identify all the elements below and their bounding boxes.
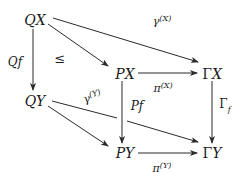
label-qf: Qf <box>8 57 22 68</box>
arrow-gamma-x <box>53 18 198 62</box>
arrow-gamma-y-b <box>127 121 198 142</box>
node-gamma-x: ΓX <box>202 67 222 81</box>
node-qy: QY <box>25 94 46 108</box>
node-py: PY <box>116 146 135 160</box>
label-pf: Pf <box>131 101 144 112</box>
label-gamma-f: Γf <box>219 99 230 114</box>
gamma-x-upper: Γ <box>202 66 212 82</box>
label-pi-x: π(X) <box>153 80 172 94</box>
arrow-qy-py <box>48 106 108 146</box>
node-px: PX <box>115 67 134 81</box>
commutative-diagram: QX PX ΓX QY PY ΓY γ(X) ≤ Qf π(X) γ(Y) Pf… <box>0 0 240 179</box>
gamma-y-upper: Γ <box>203 145 213 161</box>
label-leq: ≤ <box>55 53 66 64</box>
node-gamma-y: ΓY <box>203 146 222 160</box>
node-qx: QX <box>24 13 45 27</box>
label-gamma-x: γ(X) <box>153 13 172 27</box>
label-pi-y: π(Y) <box>153 160 172 174</box>
